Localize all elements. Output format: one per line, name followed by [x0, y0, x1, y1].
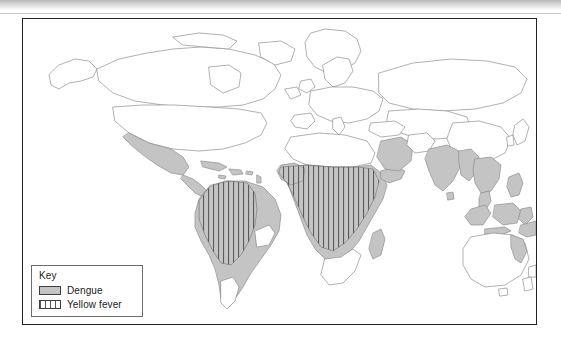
- cuba: [201, 161, 227, 171]
- north-africa: [285, 133, 375, 167]
- madagascar: [369, 229, 385, 259]
- top-gradient-band: [0, 0, 561, 10]
- tasmania: [499, 288, 508, 296]
- map-legend: Key Dengue Yellow fever: [31, 265, 143, 317]
- africa-yellow-fever: [279, 165, 379, 251]
- indochina: [473, 157, 501, 193]
- europe-mainland: [309, 87, 383, 123]
- new-zealand-south: [523, 277, 533, 291]
- turkey-caucasus: [369, 121, 405, 137]
- world-map-frame: Key Dengue Yellow fever: [22, 18, 537, 325]
- india: [425, 145, 461, 191]
- legend-item-yellow-fever: Yellow fever: [39, 298, 134, 311]
- dengue-swatch-icon: [39, 286, 61, 295]
- iberia: [291, 113, 315, 129]
- hispaniola: [229, 169, 243, 175]
- sumatra: [465, 205, 491, 225]
- legend-title: Key: [39, 270, 134, 282]
- puerto-rico: [246, 171, 253, 175]
- korea: [507, 135, 514, 146]
- legend-item-dengue: Dengue: [39, 284, 134, 297]
- figure-root: Key Dengue Yellow fever: [0, 0, 561, 345]
- canada-mainland: [97, 47, 281, 107]
- top-divider-rule: [0, 13, 561, 14]
- newfoundland: [285, 87, 301, 99]
- legend-label-dengue: Dengue: [67, 284, 103, 297]
- yellow-fever-swatch-icon: [39, 300, 61, 309]
- new-guinea: [519, 221, 536, 237]
- legend-label-yellow-fever: Yellow fever: [67, 298, 122, 311]
- japan: [513, 119, 529, 145]
- jamaica: [219, 175, 226, 179]
- borneo: [493, 203, 521, 225]
- alaska: [49, 59, 97, 89]
- canada-arctic-islands: [173, 33, 237, 49]
- sri-lanka: [447, 192, 454, 200]
- russia: [379, 59, 527, 111]
- new-zealand-north: [529, 265, 536, 277]
- philippines: [507, 173, 523, 197]
- lesser-antilles: [257, 175, 261, 183]
